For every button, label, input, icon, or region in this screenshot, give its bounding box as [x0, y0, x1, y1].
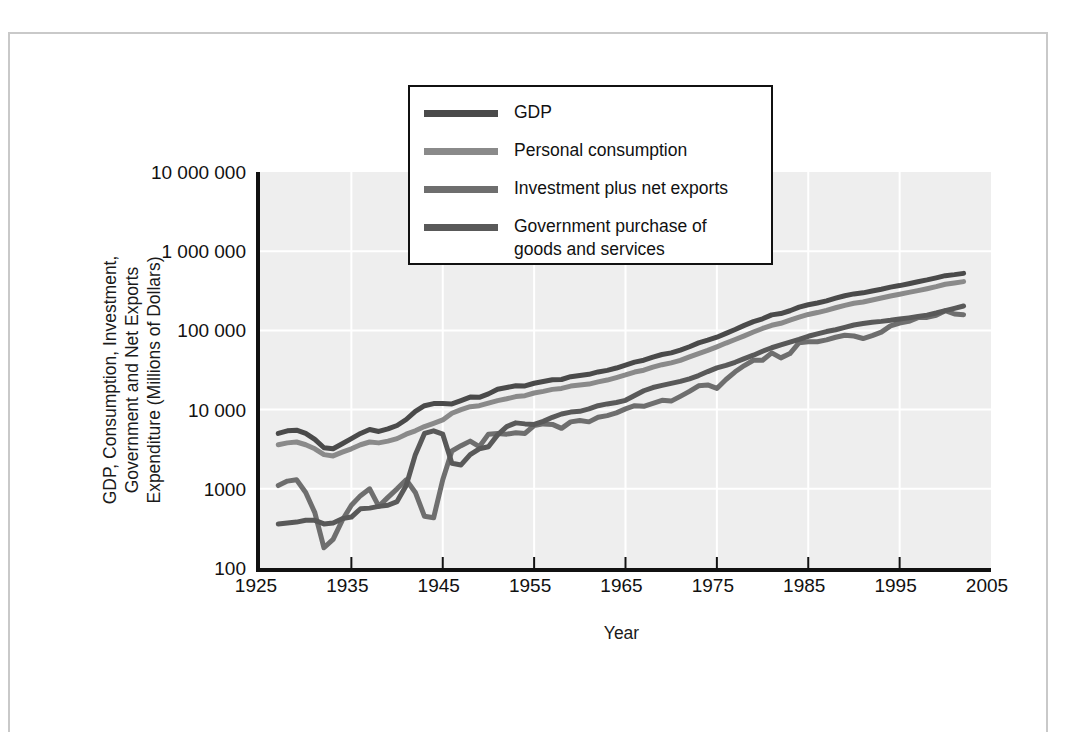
legend-label: Investment plus net exports: [514, 177, 728, 200]
legend-item: Government purchase of goods and service…: [410, 215, 771, 267]
x-axis-tick-labels: 192519351945195519651975198519952005: [256, 575, 987, 605]
y-axis-tick-label: 100 000: [96, 321, 246, 340]
y-axis-tick-label: 1 000 000: [96, 242, 246, 261]
y-axis-tick-label: 1000: [96, 480, 246, 499]
x-axis-tick-label: 1975: [668, 575, 758, 597]
x-axis-tick-label: 1985: [759, 575, 849, 597]
legend-item: Personal consumption: [410, 139, 771, 177]
x-axis-tick-label: 1935: [302, 575, 392, 597]
legend-swatch: [424, 186, 498, 193]
legend-label: Government purchase of goods and service…: [514, 215, 707, 261]
x-axis-tick-label: 1965: [577, 575, 667, 597]
x-axis-tick-label: 1925: [211, 575, 301, 597]
chart-legend: GDPPersonal consumptionInvestment plus n…: [408, 85, 773, 265]
series-line: [278, 273, 963, 448]
legend-item: GDP: [410, 101, 771, 139]
y-axis-tick-labels: 10 000 0001 000 000100 00010 0001000100: [96, 0, 246, 725]
legend-label: GDP: [514, 101, 552, 124]
legend-swatch: [424, 224, 498, 231]
legend-swatch: [424, 110, 498, 117]
x-axis-tick-label: 1955: [485, 575, 575, 597]
y-axis-tick-label: 10 000 000: [96, 163, 246, 182]
legend-swatch: [424, 148, 498, 155]
y-axis-tick-label: 10 000: [96, 401, 246, 420]
legend-label: Personal consumption: [514, 139, 687, 162]
x-axis-tick-label: 1995: [851, 575, 941, 597]
x-axis-title: Year: [256, 623, 987, 644]
legend-item: Investment plus net exports: [410, 177, 771, 215]
x-axis-tick-label: 2005: [942, 575, 1032, 597]
x-axis-tick-label: 1945: [394, 575, 484, 597]
